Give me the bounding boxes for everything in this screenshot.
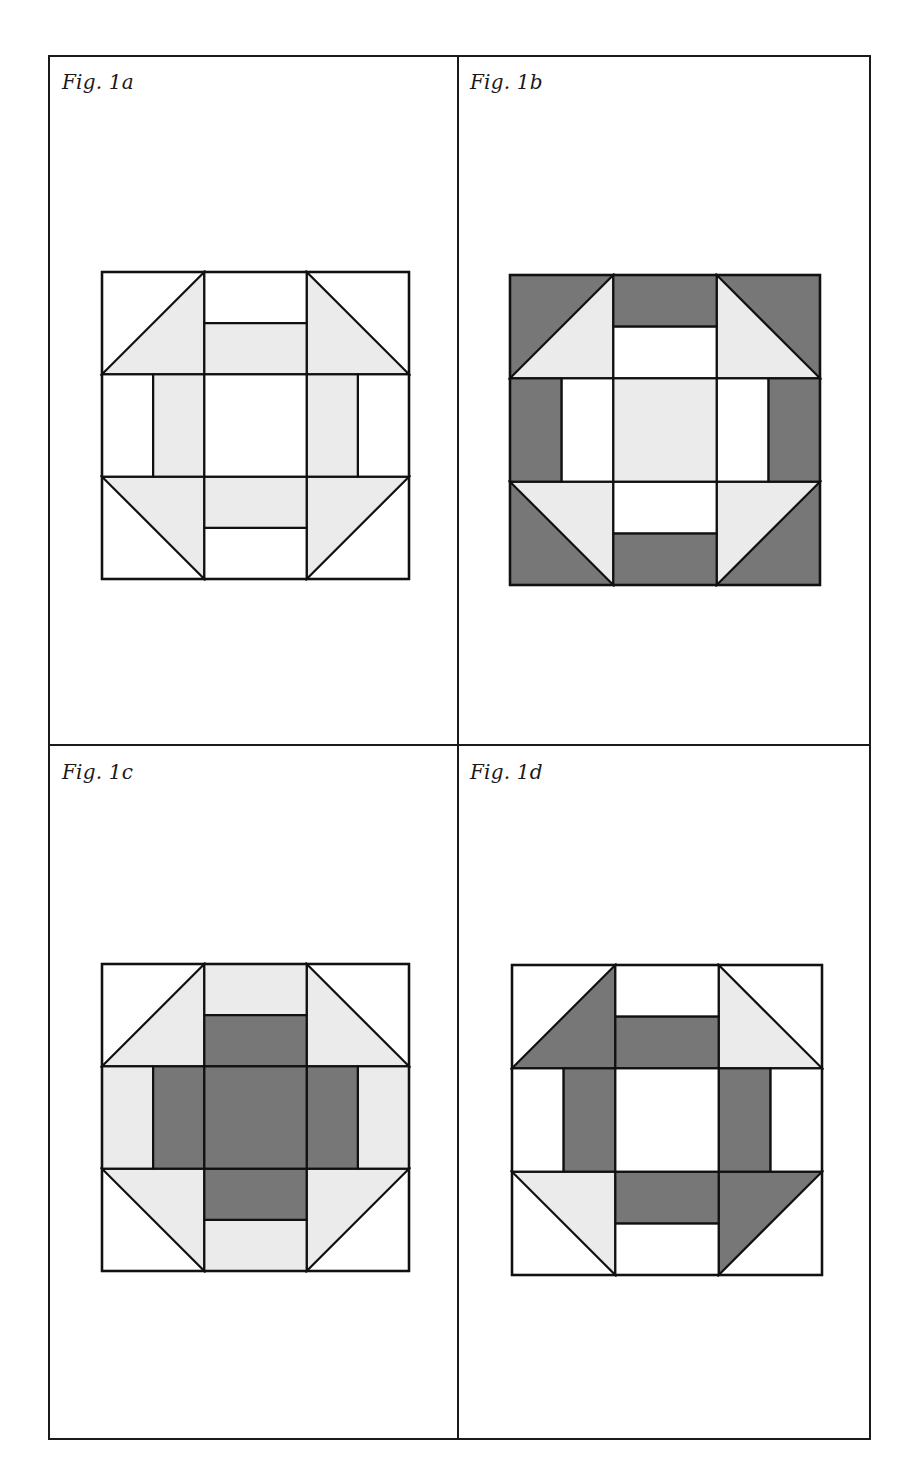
side-bottom-outer xyxy=(204,528,306,579)
side-left-outer xyxy=(102,1066,153,1168)
center-square xyxy=(204,1066,306,1168)
side-right-inner xyxy=(719,1068,771,1171)
side-left-outer xyxy=(102,374,153,476)
figure-label-1a: Fig. 1a xyxy=(62,70,134,94)
side-top-outer xyxy=(613,275,716,327)
side-bottom-outer xyxy=(615,1223,718,1275)
side-bottom-inner xyxy=(204,1169,306,1220)
side-top-inner xyxy=(204,323,306,374)
side-right-outer xyxy=(770,1068,822,1171)
side-left-inner xyxy=(153,1066,204,1168)
side-top-outer xyxy=(204,964,306,1015)
side-right-inner xyxy=(307,374,358,476)
side-right-inner xyxy=(717,378,769,481)
side-bottom-inner xyxy=(615,1172,718,1224)
side-left-outer xyxy=(510,378,562,481)
vertical-divider xyxy=(457,55,459,1440)
side-left-inner xyxy=(562,378,614,481)
side-bottom-inner xyxy=(613,482,716,534)
horizontal-divider xyxy=(48,744,871,746)
figure-label-1c: Fig. 1c xyxy=(62,760,133,784)
quilt-block-1a xyxy=(100,270,411,581)
side-top-inner xyxy=(204,1015,306,1066)
figure-label-1d: Fig. 1d xyxy=(470,760,543,784)
side-right-outer xyxy=(768,378,820,481)
center-square xyxy=(615,1068,718,1171)
side-right-outer xyxy=(358,1066,409,1168)
side-top-outer xyxy=(204,272,306,323)
side-top-inner xyxy=(613,327,716,379)
side-left-inner xyxy=(153,374,204,476)
side-right-inner xyxy=(307,1066,358,1168)
side-left-outer xyxy=(512,1068,564,1171)
quilt-block-1c xyxy=(100,962,411,1273)
quilt-block-1d xyxy=(510,963,824,1277)
center-square xyxy=(613,378,716,481)
side-left-inner xyxy=(564,1068,616,1171)
figure-label-1b: Fig. 1b xyxy=(470,70,543,94)
center-square xyxy=(204,374,306,476)
side-bottom-inner xyxy=(204,477,306,528)
side-right-outer xyxy=(358,374,409,476)
side-bottom-outer xyxy=(204,1220,306,1271)
side-top-inner xyxy=(615,1017,718,1069)
side-top-outer xyxy=(615,965,718,1017)
quilt-block-1b xyxy=(508,273,822,587)
side-bottom-outer xyxy=(613,533,716,585)
